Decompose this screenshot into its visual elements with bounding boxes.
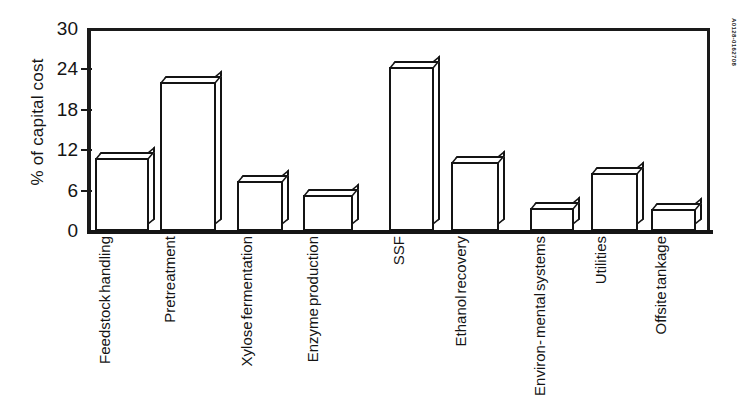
x-axis-label-8: Offsitetankage — [653, 236, 679, 386]
x-axis-label-6: Environ-mentalsystems — [532, 236, 558, 386]
bar-6 — [530, 208, 574, 231]
x-axis-label-line: mental — [532, 293, 548, 338]
x-axis-label-line: production — [305, 236, 321, 306]
bar-4 — [389, 67, 434, 231]
x-axis-label-1: Pretreatment — [162, 236, 188, 386]
x-axis-label-line: Environ- — [532, 340, 548, 396]
bar-front-face — [451, 162, 499, 231]
y-tick-label-12: 12 — [44, 140, 78, 159]
bar-front-face — [389, 67, 434, 231]
bar-front-face — [303, 195, 353, 231]
y-tick-label-18: 18 — [44, 100, 78, 119]
x-axis-label-line: Ethanol — [453, 296, 469, 347]
figure-id-text: A0128-0162708 — [731, 18, 737, 114]
x-axis-label-line: recovery — [453, 236, 469, 294]
bar-side-face — [433, 56, 440, 225]
bar-side-face — [215, 70, 222, 225]
y-tick-label-24: 24 — [44, 59, 78, 78]
y-tick-label-6: 6 — [44, 181, 78, 200]
x-axis-label-line: Enzyme — [305, 308, 321, 362]
x-axis-label-line: SSF — [391, 236, 407, 265]
x-axis-label-2: Xylosefermentation — [239, 236, 265, 386]
x-axis-label-0: Feedstockhandling — [97, 236, 123, 386]
bar-8 — [651, 209, 696, 231]
bar-front-face — [237, 181, 283, 231]
x-axis-label-line: Feedstock — [97, 295, 113, 364]
x-axis-label-line: handling — [97, 236, 113, 293]
x-axis-label-line: tankage — [653, 236, 669, 289]
bar-5 — [451, 162, 499, 231]
x-axis-label-line: systems — [532, 236, 548, 291]
bar-front-face — [530, 208, 574, 231]
x-axis-category-labels: FeedstockhandlingPretreatmentXyloseferme… — [0, 236, 752, 387]
bar-front-face — [651, 209, 696, 231]
x-axis-label-5: Ethanolrecovery — [453, 236, 479, 386]
x-axis-label-line: Pretreatment — [162, 236, 178, 323]
x-axis-label-line: Utilities — [593, 236, 609, 284]
bar-3 — [303, 195, 353, 231]
bar-0 — [95, 158, 149, 231]
bar-7 — [591, 173, 638, 231]
x-axis-label-3: Enzymeproduction — [305, 236, 331, 386]
bar-front-face — [160, 82, 216, 231]
x-axis-label-4: SSF — [391, 236, 417, 386]
y-tick-label-30: 30 — [44, 19, 78, 38]
bar-front-face — [95, 158, 149, 231]
x-axis-label-line: Offsite — [653, 291, 669, 334]
x-axis-label-7: Utilities — [593, 236, 619, 386]
bar-2 — [237, 181, 283, 231]
x-axis-label-line: Xylose — [239, 321, 255, 366]
x-axis-label-line: fermentation — [239, 236, 255, 319]
bar-1 — [160, 82, 216, 231]
bar-front-face — [591, 173, 638, 231]
